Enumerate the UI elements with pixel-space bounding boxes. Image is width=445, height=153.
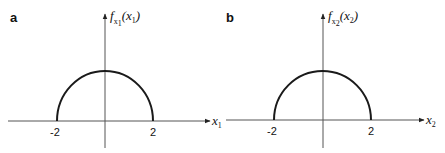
panel-a: a -2 2 fx1(x1) x1	[8, 8, 222, 148]
panel-b-label: b	[226, 10, 234, 25]
figure: a -2 2 fx1(x1) x1 b -2 2 fx2(x2) x2	[0, 0, 445, 153]
panel-b: b -2 2 fx2(x2) x2	[226, 8, 436, 148]
svg-text:x1: x1	[211, 113, 222, 130]
tick-2-b: 2	[368, 125, 374, 137]
y-axis-label-a: fx1(x1)	[110, 8, 140, 28]
tick-neg2-b: -2	[267, 125, 277, 137]
svg-text:fx1(x1): fx1(x1)	[110, 8, 140, 28]
y-axis-label-b: fx2(x2)	[328, 8, 358, 28]
tick-2-a: 2	[150, 126, 156, 138]
x-axis-label-a: x1	[211, 113, 222, 130]
panel-a-label: a	[10, 10, 18, 25]
x-axis-label-b: x2	[425, 112, 436, 129]
svg-text:x2: x2	[425, 112, 436, 129]
tick-neg2-a: -2	[50, 126, 60, 138]
svg-text:fx2(x2): fx2(x2)	[328, 8, 358, 28]
